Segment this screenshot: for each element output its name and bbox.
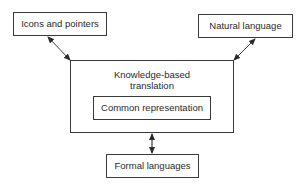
common-representation-label: Common representation bbox=[101, 103, 203, 114]
label-line-1: Knowledge-based bbox=[71, 69, 233, 80]
label-line-2: translation bbox=[71, 80, 233, 91]
icons-and-pointers-node: Icons and pointers bbox=[13, 12, 107, 36]
formal-languages-node: Formal languages bbox=[106, 154, 199, 178]
common-representation-node: Common representation bbox=[93, 96, 211, 120]
arrow-icons-to-translation bbox=[48, 37, 70, 60]
formal-languages-label: Formal languages bbox=[114, 161, 190, 172]
natural-language-label: Natural language bbox=[209, 21, 281, 32]
arrow-natural-to-translation bbox=[234, 39, 255, 60]
knowledge-based-translation-label: Knowledge-based translation bbox=[71, 69, 233, 92]
icons-and-pointers-label: Icons and pointers bbox=[21, 19, 99, 30]
natural-language-node: Natural language bbox=[198, 14, 293, 38]
